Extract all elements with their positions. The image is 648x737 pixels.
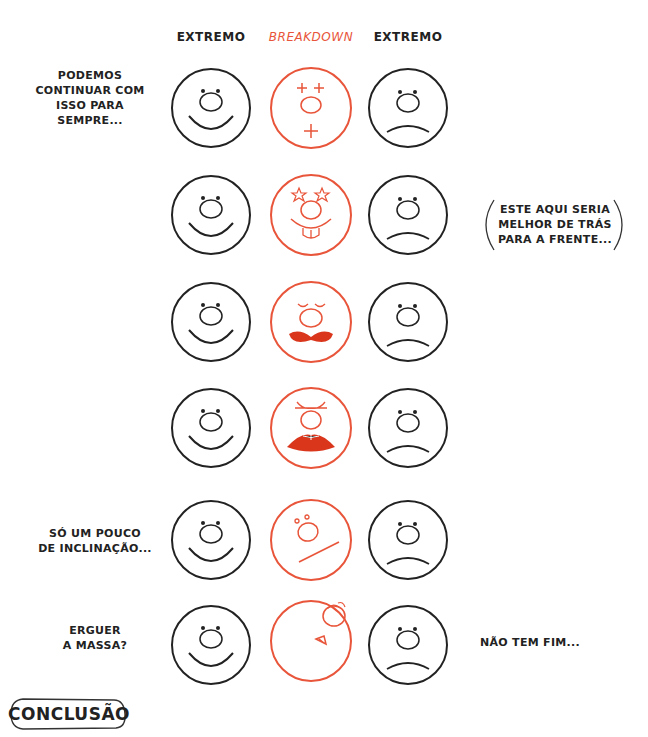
face-happy-row4 [172, 389, 250, 467]
face-happy-row6 [172, 606, 250, 684]
face-breakdown-row1 [271, 68, 351, 148]
face-breakdown-row3 [271, 282, 351, 362]
conclusion-box: CONCLUSÃO [8, 697, 128, 731]
conclusion-label: CONCLUSÃO [8, 704, 128, 724]
face-breakdown-row4 [271, 388, 351, 468]
face-breakdown-row5 [271, 500, 351, 580]
face-happy-row3 [172, 283, 250, 361]
face-sad-row6 [369, 606, 447, 684]
face-sad-row3 [369, 283, 447, 361]
face-sad-row2 [369, 176, 447, 254]
face-happy-row2 [172, 176, 250, 254]
faces-grid [0, 0, 648, 737]
face-sad-row4 [369, 389, 447, 467]
face-breakdown-row6 [271, 601, 351, 681]
face-breakdown-row2 [271, 175, 351, 255]
face-sad-row1 [369, 69, 447, 147]
face-sad-row5 [369, 501, 447, 579]
face-happy-row1 [172, 69, 250, 147]
face-happy-row5 [172, 501, 250, 579]
